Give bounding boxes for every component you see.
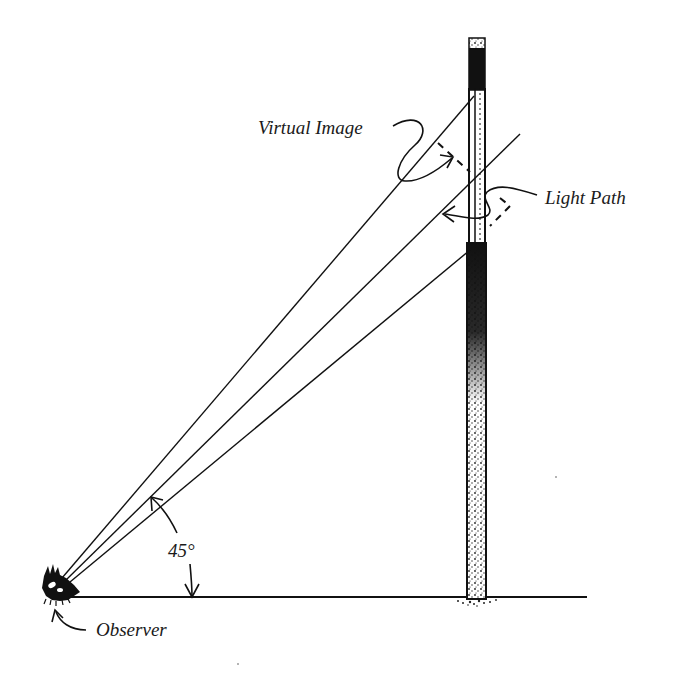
observer-pointer [52, 610, 86, 630]
light-path-label: Light Path [545, 188, 626, 207]
angle-label: 45° [168, 541, 195, 560]
observer-label: Observer [96, 620, 167, 639]
sight-line-middle [66, 134, 520, 580]
diagram-canvas: Virtual Image Light Path 45° Observer [0, 0, 673, 675]
virtual-image-reflection [438, 143, 510, 226]
light-path-pointer [443, 187, 537, 222]
sight-line-lower [70, 250, 470, 582]
virtual-image-label: Virtual Image [258, 118, 363, 137]
diagram-art [0, 0, 673, 675]
pole [457, 38, 497, 607]
sight-lines [62, 96, 520, 582]
virtual-image-pointer [393, 120, 453, 181]
observer-eye-icon [42, 564, 80, 606]
sight-line-upper [62, 96, 474, 578]
